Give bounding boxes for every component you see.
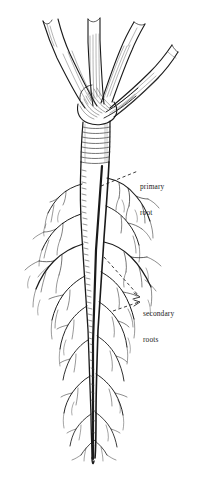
label-secondary-roots-line1: secondary — [143, 310, 174, 319]
label-primary-root: primary root — [140, 166, 164, 226]
label-primary-root-line1: primary — [140, 183, 164, 192]
label-secondary-roots-line2: roots — [143, 336, 174, 345]
root-system-illustration — [0, 0, 199, 479]
label-primary-root-line2: root — [140, 209, 164, 218]
paper-background — [0, 0, 199, 479]
label-secondary-roots: secondary roots — [143, 293, 174, 353]
